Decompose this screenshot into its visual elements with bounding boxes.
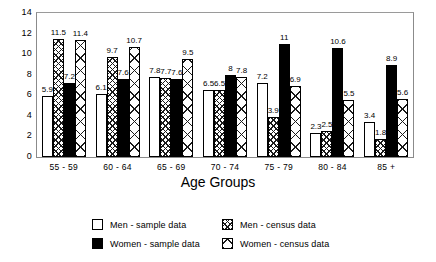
bar-value-label: 7.2	[64, 73, 75, 81]
bar-value-label: 6.5	[203, 80, 214, 88]
bar[interactable]: 3.9	[268, 117, 279, 157]
bar-group: 6.19.77.610.7	[91, 13, 145, 157]
bar[interactable]: 11.4	[75, 40, 86, 157]
chart-figure: 14121086420 5.911.57.211.46.19.77.610.77…	[0, 0, 436, 262]
bar-group-bars: 3.41.88.95.6	[364, 13, 408, 157]
bar-groups: 5.911.57.211.46.19.77.610.77.87.77.69.56…	[37, 13, 413, 157]
bar-group-bars: 7.23.9116.9	[257, 13, 301, 157]
bar-value-label: 3.9	[268, 107, 279, 115]
bar-value-label: 7.6	[171, 69, 182, 77]
legend-row: Men - sample dataMen - census data	[92, 215, 352, 234]
y-axis-tick-label: 8	[6, 70, 32, 79]
bar-value-label: 5.5	[343, 90, 354, 98]
bar[interactable]: 5.5	[343, 100, 354, 157]
bar[interactable]: 7.7	[160, 78, 171, 157]
bar-value-label: 7.7	[160, 68, 171, 76]
bar-value-label: 8	[228, 65, 232, 73]
legend-swatch-icon	[222, 238, 233, 249]
bar-value-label: 5.6	[397, 89, 408, 97]
bar[interactable]: 7.6	[118, 79, 129, 157]
bar-group: 7.23.9116.9	[252, 13, 306, 157]
bar[interactable]: 6.5	[214, 90, 225, 157]
bar[interactable]: 9.7	[107, 57, 118, 157]
legend-label: Women - sample data	[110, 239, 200, 249]
bar[interactable]: 10.6	[332, 48, 343, 157]
legend-item[interactable]: Men - census data	[222, 219, 352, 230]
bar[interactable]: 11	[279, 44, 290, 157]
bar-value-label: 9.5	[182, 49, 193, 57]
legend-swatch-icon	[92, 219, 103, 230]
bar[interactable]: 5.6	[397, 99, 408, 157]
legend-item[interactable]: Women - sample data	[92, 238, 222, 249]
y-axis: 14121086420	[2, 12, 32, 158]
bar-group-bars: 7.87.77.69.5	[149, 13, 193, 157]
bar[interactable]: 3.4	[364, 122, 375, 157]
bar[interactable]: 7.2	[257, 83, 268, 157]
bar[interactable]: 9.5	[182, 59, 193, 157]
bar[interactable]: 7.2	[64, 83, 75, 157]
bar-value-label: 11.5	[51, 29, 66, 37]
bar[interactable]: 2.5	[321, 131, 332, 157]
bar[interactable]: 7.8	[149, 77, 160, 157]
bar-value-label: 10.7	[126, 37, 142, 45]
bar[interactable]: 5.9	[42, 96, 53, 157]
y-axis-tick-label: 10	[6, 49, 32, 58]
bar-value-label: 5.9	[42, 86, 53, 94]
bar-group: 7.87.77.69.5	[144, 13, 198, 157]
bar-group-bars: 6.19.77.610.7	[96, 13, 140, 157]
x-axis-title: Age Groups	[0, 174, 436, 190]
bar-group: 6.56.587.8	[198, 13, 252, 157]
bar-value-label: 2.3	[310, 123, 321, 131]
bar-value-label: 9.7	[107, 47, 118, 55]
bar[interactable]: 7.8	[236, 77, 247, 157]
bar-group-bars: 5.911.57.211.4	[42, 13, 86, 157]
legend-item[interactable]: Men - sample data	[92, 219, 222, 230]
y-axis-tick-label: 2	[6, 131, 32, 140]
bar-value-label: 11.4	[73, 30, 88, 38]
bar[interactable]: 10.7	[129, 47, 140, 157]
y-axis-tick-label: 4	[6, 111, 32, 120]
legend-label: Women - census data	[240, 239, 329, 249]
bar-value-label: 6.9	[290, 76, 301, 84]
bar-value-label: 3.4	[364, 112, 375, 120]
bar-value-label: 7.8	[236, 67, 247, 75]
bar-group: 3.41.88.95.6	[359, 13, 413, 157]
y-axis-tick-label: 12	[6, 29, 32, 38]
legend-row: Women - sample dataWomen - census data	[92, 234, 352, 253]
bar[interactable]: 6.1	[96, 94, 107, 157]
y-axis-tick-label: 14	[6, 8, 32, 17]
legend-swatch-icon	[222, 219, 233, 230]
bar[interactable]: 8.9	[386, 65, 397, 157]
bar-value-label: 7.6	[118, 69, 129, 77]
bar[interactable]: 2.3	[310, 133, 321, 157]
bar[interactable]: 6.5	[203, 90, 214, 157]
bar-value-label: 2.5	[321, 121, 332, 129]
legend-swatch-icon	[92, 238, 103, 249]
bar-value-label: 11	[280, 34, 288, 42]
bar-value-label: 6.5	[214, 80, 225, 88]
y-axis-tick-label: 0	[6, 152, 32, 161]
y-axis-tick-label: 6	[6, 90, 32, 99]
bar-value-label: 7.2	[257, 73, 268, 81]
bar-group-bars: 2.32.510.65.5	[310, 13, 354, 157]
legend-item[interactable]: Women - census data	[222, 238, 352, 249]
bar[interactable]: 7.6	[171, 79, 182, 157]
bar-value-label: 8.9	[386, 55, 397, 63]
legend-label: Men - census data	[240, 220, 316, 230]
legend-label: Men - sample data	[110, 220, 186, 230]
bar[interactable]: 6.9	[290, 86, 301, 157]
bar[interactable]: 11.5	[53, 39, 64, 157]
bar-group: 5.911.57.211.4	[37, 13, 91, 157]
bar[interactable]: 1.8	[375, 139, 386, 158]
bar-value-label: 7.8	[149, 67, 160, 75]
bar-value-label: 10.6	[330, 38, 346, 46]
bar-value-label: 6.1	[96, 84, 107, 92]
chart-legend: Men - sample dataMen - census dataWomen …	[92, 215, 352, 253]
bar[interactable]: 8	[225, 75, 236, 157]
bar-group: 2.32.510.65.5	[306, 13, 360, 157]
bar-group-bars: 6.56.587.8	[203, 13, 247, 157]
bar-value-label: 1.8	[375, 129, 386, 137]
